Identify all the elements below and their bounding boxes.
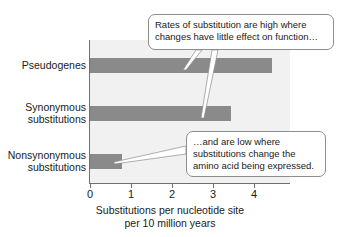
- x-axis-title: Substitutions per nucleotide site per 10…: [40, 204, 300, 230]
- bar-pseudogenes: [90, 58, 272, 73]
- x-axis-title-line: per 10 million years: [40, 217, 300, 230]
- category-label-synonymous-substitutions: Synonymous substitutions: [0, 102, 86, 125]
- callout-text-line: changes have little effect on function…: [155, 31, 327, 43]
- category-label-line: substitutions: [0, 114, 86, 126]
- category-label-line: Synonymous: [0, 102, 86, 114]
- callout-text-line: Rates of substitution are high where: [155, 19, 327, 31]
- callout-text-line: substitutions change the: [193, 148, 319, 160]
- x-tick-label-1: 1: [121, 188, 141, 201]
- x-axis-line: [89, 183, 290, 184]
- x-tick-label-3: 3: [203, 188, 223, 201]
- callout-text-line: amino acid being expressed.: [193, 160, 319, 172]
- x-tick-label-0: 0: [80, 188, 100, 201]
- bar-nonsynonymous-substitutions: [90, 154, 122, 169]
- y-axis-line: [89, 40, 90, 184]
- callout-high-rates: Rates of substitution are high where cha…: [148, 14, 334, 50]
- x-tick-label-2: 2: [162, 188, 182, 201]
- bar-chart-figure: 0 1 2 3 4 Pseudogenes Synonymous substit…: [0, 0, 339, 237]
- category-label-line: Nonsynonymous: [0, 150, 86, 162]
- x-axis-title-line: Substitutions per nucleotide site: [40, 204, 300, 217]
- bar-synonymous-substitutions: [90, 106, 231, 121]
- x-tick-label-4: 4: [244, 188, 264, 201]
- category-label-line: substitutions: [0, 162, 86, 174]
- category-label-pseudogenes: Pseudogenes: [0, 60, 86, 72]
- category-label-line: Pseudogenes: [0, 60, 86, 72]
- callout-text-line: …and are low where: [193, 136, 319, 148]
- callout-low-rates: …and are low where substitutions change …: [186, 131, 326, 177]
- category-label-nonsynonymous-substitutions: Nonsynonymous substitutions: [0, 150, 86, 173]
